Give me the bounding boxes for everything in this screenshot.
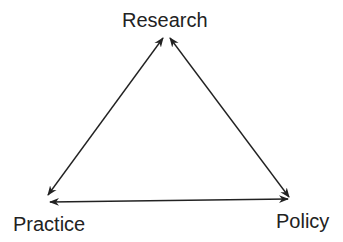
edge-research-policy: [170, 38, 289, 197]
edge-research-practice: [48, 38, 163, 195]
edge-practice-policy: [50, 199, 288, 202]
relationship-triangle-diagram: [0, 0, 343, 242]
